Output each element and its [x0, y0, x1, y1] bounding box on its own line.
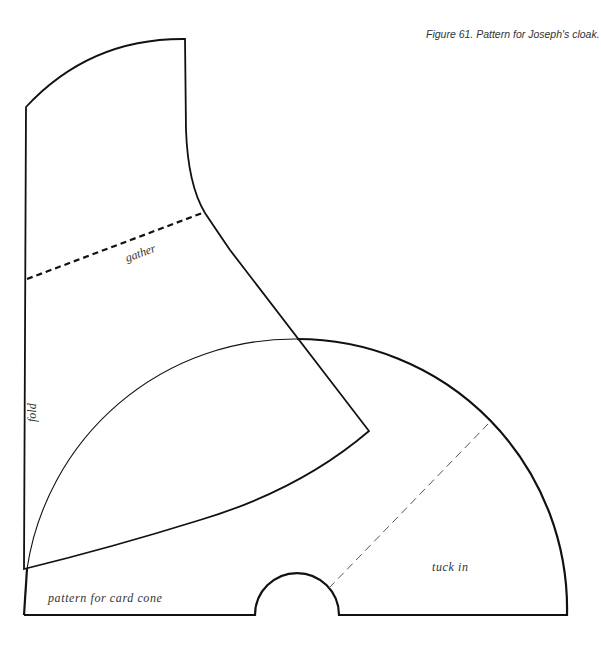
pattern-diagram: gather fold pattern for card cone tuck i…	[0, 0, 601, 649]
cloak-outline	[24, 39, 369, 569]
gather-label: gather	[123, 241, 158, 265]
card-cone-left-arc	[27, 339, 297, 569]
card-cone-outline	[24, 339, 567, 615]
gather-dashed-line	[27, 212, 205, 279]
fold-label: fold	[25, 402, 39, 422]
card-cone-left-edge	[24, 569, 27, 615]
card-cone-label: pattern for card cone	[47, 591, 163, 605]
tuck-in-label: tuck in	[432, 560, 469, 574]
